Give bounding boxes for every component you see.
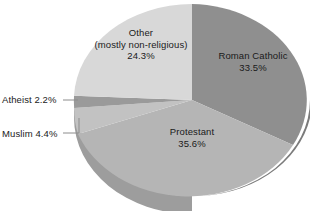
slice-label-atheist-text: Atheist 2.2%	[2, 94, 57, 106]
pie-chart-figure: Roman Catholic 33.5% Protestant 35.6% Ot…	[0, 0, 315, 211]
slice-label-muslim-text: Muslim 4.4%	[2, 128, 57, 140]
slice-other	[74, 4, 192, 100]
pie-top-face	[74, 4, 307, 196]
pie-chart-graphic	[0, 0, 315, 211]
slice-label-muslim: Muslim 4.4%	[2, 128, 57, 140]
slice-label-atheist: Atheist 2.2%	[2, 94, 57, 106]
